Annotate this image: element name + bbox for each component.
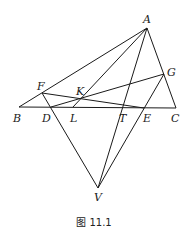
- segment-GV: [98, 74, 164, 188]
- segment-BC: [19, 107, 176, 108]
- segment-DG: [51, 74, 164, 107]
- point-label-v: V: [94, 191, 103, 204]
- point-labels: ABCDLTEFGKV: [12, 13, 180, 204]
- point-label-a: A: [142, 13, 151, 26]
- point-label-k: K: [75, 85, 85, 98]
- point-label-g: G: [167, 66, 176, 79]
- point-label-b: B: [12, 112, 21, 125]
- point-label-d: D: [41, 112, 51, 125]
- point-label-t: T: [119, 112, 128, 125]
- point-label-f: F: [36, 80, 45, 93]
- figure-caption: 图 11.1: [76, 217, 111, 228]
- segments: [19, 28, 176, 188]
- point-label-c: C: [171, 112, 180, 125]
- geometry-figure: ABCDLTEFGKV 图 11.1: [0, 0, 189, 234]
- point-label-e: E: [142, 112, 151, 125]
- point-label-l: L: [69, 112, 77, 125]
